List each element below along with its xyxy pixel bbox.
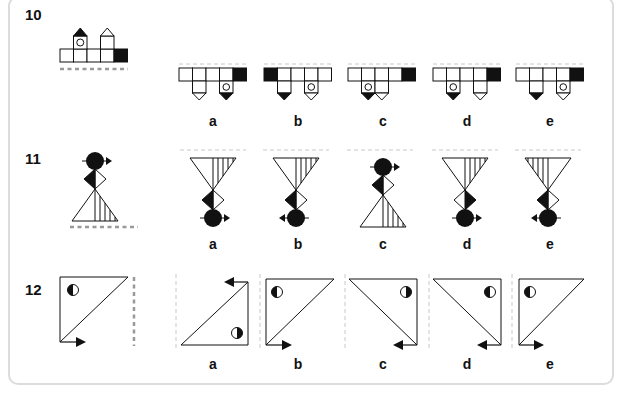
q12-original-figure [58,274,138,346]
question-number-12: 12 [25,281,42,298]
q12-option-b-label[interactable]: b [288,356,308,372]
q11-option-c-figure[interactable] [347,148,415,234]
q11-option-a-label[interactable]: a [203,236,223,252]
q12-option-d-figure[interactable] [427,274,507,350]
q10-option-e-figure[interactable] [515,62,587,104]
q11-option-b-label[interactable]: b [288,236,308,252]
q10-option-d-figure[interactable] [432,62,504,104]
q12-option-e-figure[interactable] [510,274,590,350]
q12-option-c-label[interactable]: c [373,356,393,372]
q11-option-e-figure[interactable] [515,148,583,234]
q12-option-e-label[interactable]: e [540,356,560,372]
q11-option-b-figure[interactable] [263,148,331,234]
q11-option-e-label[interactable]: e [540,236,560,252]
q10-option-c-label[interactable]: c [373,113,393,129]
q10-option-d-label[interactable]: d [457,113,477,129]
q12-option-b-figure[interactable] [258,274,338,350]
q12-option-d-label[interactable]: d [457,356,477,372]
q11-original-figure [70,148,140,230]
question-number-11: 11 [25,150,41,167]
q10-option-a-figure[interactable] [178,62,250,104]
question-number-10: 10 [25,6,42,23]
q10-option-a-label[interactable]: a [203,113,223,129]
q11-option-c-label[interactable]: c [373,236,393,252]
q10-original-figure [58,25,138,75]
q12-option-a-figure[interactable] [172,274,252,350]
q11-option-d-label[interactable]: d [457,236,477,252]
q12-option-a-label[interactable]: a [203,356,223,372]
q10-option-e-label[interactable]: e [540,113,560,129]
q10-option-b-label[interactable]: b [288,113,308,129]
q10-option-c-figure[interactable] [347,62,419,104]
q10-option-b-figure[interactable] [263,62,335,104]
q11-option-a-figure[interactable] [180,148,248,234]
q11-option-d-figure[interactable] [432,148,500,234]
q12-option-c-figure[interactable] [343,274,423,350]
